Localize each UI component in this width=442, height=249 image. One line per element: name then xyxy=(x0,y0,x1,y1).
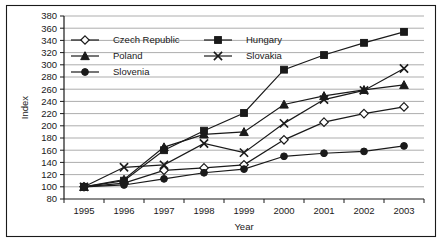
x-tick-label-2001: 2001 xyxy=(313,205,334,216)
y-tick-label-300: 300 xyxy=(41,59,57,70)
legend-entry-poland[interactable]: Poland xyxy=(71,50,143,61)
y-tick-label-320: 320 xyxy=(41,47,57,58)
data-point-1999 xyxy=(241,166,248,173)
data-point-1999 xyxy=(241,110,248,117)
chart-legend: Czech RepublicHungaryPolandSlovakiaSlove… xyxy=(71,34,283,77)
data-point-2003 xyxy=(401,143,408,150)
y-tick-label-280: 280 xyxy=(41,71,57,82)
data-point-2002 xyxy=(361,39,368,46)
y-tick-label-180: 180 xyxy=(41,132,57,143)
legend-label: Hungary xyxy=(246,34,282,45)
data-point-2003 xyxy=(400,64,408,72)
legend-marker-filled-circle xyxy=(82,69,89,76)
y-tick-label-140: 140 xyxy=(41,157,57,168)
y-tick-label-220: 220 xyxy=(41,108,57,119)
y-tick-label-260: 260 xyxy=(41,84,57,95)
y-tick-label-120: 120 xyxy=(41,169,57,180)
data-point-1998 xyxy=(200,139,208,147)
legend-marker-open-diamond xyxy=(81,36,89,44)
data-point-2002 xyxy=(361,148,368,155)
x-tick-label-1999: 1999 xyxy=(233,205,254,216)
y-tick-label-160: 160 xyxy=(41,145,57,156)
x-tick-label-1995: 1995 xyxy=(73,205,94,216)
y-tick-label-240: 240 xyxy=(41,96,57,107)
y-tick-label-100: 100 xyxy=(41,181,57,192)
chart-canvas: 8010012014016018020022024026028030032034… xyxy=(0,0,442,249)
x-tick-label-1996: 1996 xyxy=(113,205,134,216)
legend-entry-slovakia[interactable]: Slovakia xyxy=(204,50,283,61)
data-point-2002 xyxy=(360,109,368,117)
data-point-2001 xyxy=(321,52,328,59)
y-tick-label-360: 360 xyxy=(41,23,57,34)
data-point-2003 xyxy=(400,81,409,89)
data-point-1999 xyxy=(240,149,248,157)
legend-label: Slovenia xyxy=(113,66,150,77)
y-tick-label-340: 340 xyxy=(41,35,57,46)
data-point-2000 xyxy=(280,119,288,127)
legend-marker-filled-square xyxy=(215,37,222,44)
legend-label: Slovakia xyxy=(246,50,283,61)
line-chart-container: 8010012014016018020022024026028030032034… xyxy=(0,0,442,249)
y-tick-label-80: 80 xyxy=(46,193,57,204)
x-tick-label-1997: 1997 xyxy=(153,205,174,216)
legend-entry-hungary[interactable]: Hungary xyxy=(204,34,282,45)
legend-label: Poland xyxy=(113,50,143,61)
x-axis-title: Year xyxy=(234,221,253,232)
legend-label: Czech Republic xyxy=(113,34,180,45)
x-tick-label-2000: 2000 xyxy=(273,205,294,216)
data-point-1997 xyxy=(161,175,168,182)
data-point-1995 xyxy=(81,183,88,190)
data-point-1998 xyxy=(201,169,208,176)
x-tick-label-1998: 1998 xyxy=(193,205,214,216)
data-point-2000 xyxy=(281,66,288,73)
data-point-2001 xyxy=(320,118,328,126)
series-poland xyxy=(80,81,409,191)
x-axis-ticks: 199519961997199819992000200120022003 xyxy=(64,199,424,216)
x-tick-label-2003: 2003 xyxy=(393,205,414,216)
data-point-2001 xyxy=(321,150,328,157)
y-axis-title: Index xyxy=(19,96,30,119)
y-tick-label-200: 200 xyxy=(41,120,57,131)
x-tick-label-2002: 2002 xyxy=(353,205,374,216)
legend-entry-slovenia[interactable]: Slovenia xyxy=(71,66,150,77)
y-tick-label-380: 380 xyxy=(41,10,57,21)
data-point-2000 xyxy=(280,136,288,144)
data-point-2003 xyxy=(401,28,408,35)
data-point-2000 xyxy=(281,153,288,160)
legend-entry-czech-republic[interactable]: Czech Republic xyxy=(71,34,180,45)
y-axis-ticks: 8010012014016018020022024026028030032034… xyxy=(41,10,64,204)
data-point-1996 xyxy=(121,182,128,189)
data-point-2003 xyxy=(400,103,408,111)
